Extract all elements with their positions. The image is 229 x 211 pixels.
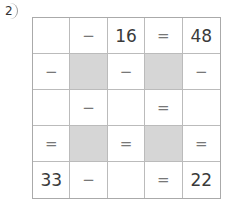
blank-answer-cell[interactable]	[33, 90, 70, 126]
shaded-cell	[145, 126, 182, 162]
number-cell: 16	[108, 18, 145, 54]
equals-sign-cell: =	[145, 162, 182, 198]
minus-sign-cell: −	[70, 90, 107, 126]
equals-sign-cell: =	[108, 126, 145, 162]
shaded-cell	[70, 54, 107, 90]
blank-answer-cell[interactable]	[183, 90, 220, 126]
minus-sign-cell: −	[33, 54, 70, 90]
blank-answer-cell[interactable]	[108, 90, 145, 126]
equals-sign-cell: =	[183, 126, 220, 162]
minus-sign-cell: −	[108, 54, 145, 90]
blank-answer-cell[interactable]	[108, 162, 145, 198]
number-cell: 22	[183, 162, 220, 198]
minus-sign-cell: −	[183, 54, 220, 90]
number-cell: 48	[183, 18, 220, 54]
problem-number-text: 2	[5, 3, 13, 19]
equals-sign-cell: =	[145, 18, 182, 54]
minus-sign-cell: −	[70, 18, 107, 54]
equals-sign-cell: =	[33, 126, 70, 162]
blank-answer-cell[interactable]	[33, 18, 70, 54]
shaded-cell	[145, 54, 182, 90]
number-cell: 33	[33, 162, 70, 198]
puzzle-grid: −16=48−−−−====33−=22	[32, 17, 221, 199]
minus-sign-cell: −	[70, 162, 107, 198]
shaded-cell	[70, 126, 107, 162]
equals-sign-cell: =	[145, 90, 182, 126]
problem-number: 2	[2, 3, 18, 19]
